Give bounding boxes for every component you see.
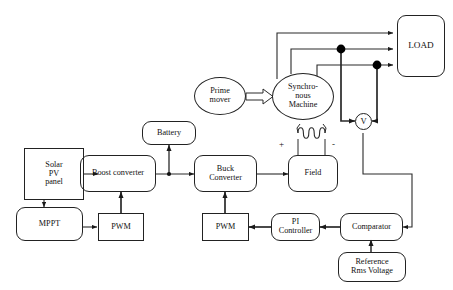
- block-pwm-boost[interactable]: PWM: [98, 213, 144, 241]
- block-pi-controller-label: PI Controller: [278, 218, 314, 236]
- symbol-mechanical-coupling: [246, 89, 273, 104]
- block-pwm-buck[interactable]: PWM: [202, 213, 249, 241]
- block-battery-label: Battery: [156, 129, 182, 138]
- block-reference-rms-voltage[interactable]: Reference Rms Voltage: [338, 252, 406, 282]
- block-solar-pv-panel[interactable]: Solar PV panel: [24, 148, 84, 200]
- wire-phase-c: [317, 65, 393, 76]
- block-voltmeter[interactable]: V: [355, 113, 372, 130]
- block-voltmeter-label: V: [359, 117, 367, 126]
- block-mppt-label: MPPT: [38, 220, 61, 229]
- block-boost-converter-label: Boost converter: [91, 169, 145, 178]
- wire-voltmeter-tap-right: [372, 65, 377, 121]
- block-synchronous-machine-label: Synchro- nous Machine: [287, 83, 319, 110]
- block-field[interactable]: Field: [288, 155, 338, 192]
- block-buck-converter[interactable]: Buck Converter: [194, 155, 257, 192]
- wire-layer: [0, 0, 453, 290]
- block-solar-pv-panel-label: Solar PV panel: [44, 161, 64, 188]
- block-load-label: LOAD: [407, 41, 435, 51]
- block-load[interactable]: LOAD: [397, 15, 445, 77]
- junction-dot-phase-b: [337, 45, 346, 54]
- block-pwm-boost-label: PWM: [110, 223, 132, 232]
- block-battery[interactable]: Battery: [142, 121, 196, 145]
- block-prime-mover-label: Prime mover: [209, 87, 232, 105]
- block-pi-controller[interactable]: PI Controller: [271, 213, 320, 241]
- block-mppt[interactable]: MPPT: [16, 207, 83, 241]
- field-positive-marker: +: [279, 139, 284, 149]
- wire-phase-a: [277, 33, 393, 79]
- block-diagram: Solar PV panel MPPT PWM Boost converter …: [0, 0, 453, 290]
- block-comparator-label: Comparator: [351, 223, 392, 232]
- junction-dot-battery: [167, 172, 171, 176]
- block-pwm-buck-label: PWM: [215, 223, 237, 232]
- block-field-label: Field: [304, 169, 323, 178]
- symbol-field-coil: [298, 128, 325, 139]
- junction-dot-phase-c: [373, 61, 382, 70]
- block-prime-mover[interactable]: Prime mover: [194, 77, 246, 115]
- block-boost-converter[interactable]: Boost converter: [80, 155, 156, 192]
- block-buck-converter-label: Buck Converter: [208, 165, 243, 183]
- block-comparator[interactable]: Comparator: [340, 213, 403, 241]
- wire-voltmeter-tap-left: [341, 49, 355, 121]
- block-reference-rms-voltage-label: Reference Rms Voltage: [350, 258, 394, 276]
- block-synchronous-machine[interactable]: Synchro- nous Machine: [272, 73, 334, 120]
- field-negative-marker: -: [332, 139, 335, 149]
